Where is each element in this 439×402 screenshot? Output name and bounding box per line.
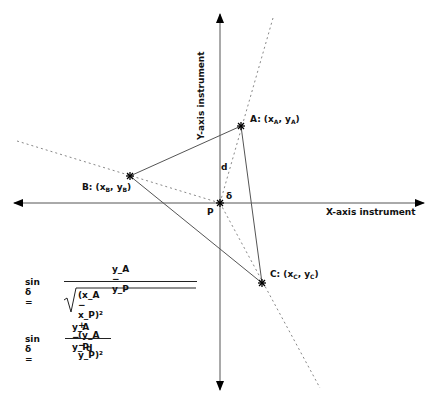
point-c-label: C: (xC, yC) [270,270,319,280]
point-p-marker [216,199,224,207]
edge-bc [130,176,262,283]
formula-1-numerator: y_A − y_P [112,264,129,294]
point-c-marker [258,279,266,287]
formula-2-lhs: sin δ = [25,334,40,364]
point-p-label: P [207,208,214,217]
geometry-canvas [0,0,439,402]
y-axis-label: Y-axis instrument [196,30,208,140]
formula-1-fraction-bar [64,281,197,282]
formula-1-lhs: sin δ = [25,277,40,307]
point-b-label: B: (xB, yB) [82,183,131,193]
dashed-line-top-to-p [220,18,273,203]
dashed-line-p-to-bottom [220,203,320,388]
point-b-marker [126,172,134,180]
x-axis-label: X-axis instrument [326,208,416,217]
distance-d-label: d [221,163,227,172]
edge-ac [241,126,262,283]
angle-delta-label: δ [226,192,232,201]
formula-2-denominator: d [86,343,92,353]
dashed-line-left-to-p [17,141,220,203]
point-a-label: A: (xA, yA) [250,115,300,125]
formula-2-fraction-bar [65,338,111,339]
point-a-marker [237,122,245,130]
